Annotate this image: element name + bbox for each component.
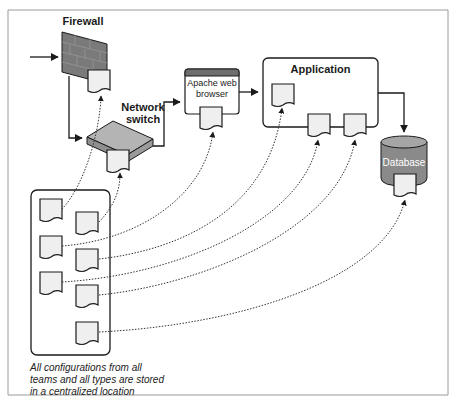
network-switch-label-line1: Network	[118, 102, 168, 114]
apache-label-line2: browser	[185, 90, 239, 99]
application-label: Application	[263, 64, 378, 76]
caption-line-2: teams and all types are stored	[30, 374, 170, 386]
apache-label-line1: Apache web	[185, 79, 239, 88]
caption: All configurations from all teams and al…	[30, 362, 170, 398]
caption-line-3: in a centralized location	[30, 386, 170, 398]
config-diagram	[0, 0, 456, 405]
caption-line-1: All configurations from all	[30, 362, 170, 374]
database-label: Database	[381, 158, 427, 169]
network-switch-label-line2: switch	[118, 114, 168, 126]
firewall-label: Firewall	[58, 16, 108, 28]
